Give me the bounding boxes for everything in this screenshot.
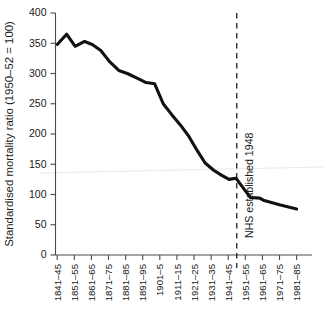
x-axis-tick-label: 1891–95 xyxy=(137,264,148,301)
x-axis-tick-label: 1951–55 xyxy=(240,264,251,301)
chart-figure: Standardised mortality ratio (1950–52 = … xyxy=(0,0,324,314)
x-axis-tick-label: 1841–45 xyxy=(52,264,63,301)
x-axis-tick-label: 1981–85 xyxy=(291,264,302,301)
y-axis-tick-label: 350 xyxy=(29,37,47,49)
y-axis-tick-label: 0 xyxy=(41,248,47,260)
x-axis-tick-label: 1961–65 xyxy=(257,264,268,301)
x-axis-tick-label: 1851–55 xyxy=(69,264,80,301)
y-axis-tick-label: 150 xyxy=(29,158,47,170)
y-axis-tick-label: 400 xyxy=(29,6,47,18)
x-axis-tick-label: 1901–5 xyxy=(154,264,165,296)
y-axis-tick-label: 200 xyxy=(29,127,47,139)
x-axis-tick-label: 1911–15 xyxy=(172,264,183,301)
y-axis-label: Standardised mortality ratio (1950–52 = … xyxy=(3,21,15,247)
x-axis-tick-label: 1941–45 xyxy=(223,264,234,301)
x-axis-tick-label: 1971–75 xyxy=(274,264,285,301)
mortality-ratio-line-chart: Standardised mortality ratio (1950–52 = … xyxy=(0,0,324,314)
x-axis-tick-label: 1861–65 xyxy=(86,264,97,301)
x-axis-tick-label: 1871–75 xyxy=(103,264,114,301)
y-axis-tick-label: 250 xyxy=(29,97,47,109)
y-axis-tick-label: 100 xyxy=(29,188,47,200)
x-axis-tick-label: 1921–25 xyxy=(189,264,200,301)
nhs-event-annotation-label: NHS established 1948 xyxy=(243,132,255,238)
y-axis-tick-label: 50 xyxy=(35,218,47,230)
x-axis-tick-label: 1931–35 xyxy=(206,264,217,301)
x-axis-tick-label: 1881–85 xyxy=(120,264,131,301)
y-axis-tick-label: 300 xyxy=(29,67,47,79)
